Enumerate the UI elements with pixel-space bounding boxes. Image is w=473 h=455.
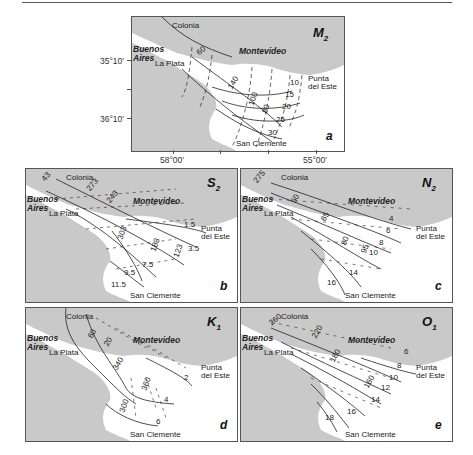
label-san-clemente: San Clemente bbox=[345, 292, 396, 300]
amp-label: 7.5 bbox=[142, 261, 153, 269]
lon-tick bbox=[220, 150, 221, 154]
amp-label: 16 bbox=[347, 408, 356, 416]
constituent-label: S2 bbox=[207, 175, 220, 193]
label-la-plata: La Plata bbox=[264, 210, 293, 218]
label-montevideo: Montevideo bbox=[239, 47, 286, 56]
label-la-plata: La Plata bbox=[49, 349, 78, 357]
label-montevideo: Montevideo bbox=[133, 336, 180, 345]
panel-letter: a bbox=[326, 129, 333, 143]
label-san-clemente: San Clemente bbox=[236, 140, 287, 148]
panel-letter: e bbox=[435, 418, 442, 432]
panel-s2: Colonia Buenos Aires La Plata Montevideo… bbox=[25, 168, 238, 303]
amp-label: 8 bbox=[379, 239, 383, 247]
amp-label: 4 bbox=[164, 396, 168, 404]
lat-label: 36°10' bbox=[100, 114, 124, 124]
lon-tick bbox=[316, 150, 317, 154]
amp-label: 2 bbox=[184, 374, 188, 382]
amp-label: 4 bbox=[389, 215, 393, 223]
label-colonia: Colonia bbox=[172, 22, 199, 30]
amp-label: 6 bbox=[386, 227, 390, 235]
panel-letter: c bbox=[435, 279, 442, 293]
lon-tick bbox=[173, 150, 174, 154]
label-aires: Aires bbox=[133, 54, 154, 63]
amp-label: 15 bbox=[285, 91, 294, 99]
label-del-este: del Este bbox=[201, 233, 230, 241]
lat-tick bbox=[127, 60, 131, 61]
amp-label: 1.5 bbox=[184, 221, 195, 229]
lon-label: 58°00' bbox=[160, 155, 184, 165]
amp-label: 30 bbox=[268, 129, 277, 137]
label-la-plata: La Plata bbox=[155, 60, 184, 68]
label-montevideo: Montevideo bbox=[133, 197, 180, 206]
panel-letter: b bbox=[220, 279, 227, 293]
amp-label: 12 bbox=[381, 384, 390, 392]
panel-letter: d bbox=[220, 418, 227, 432]
panel-m2: Colonia Buenos Aires La Plata Montevideo… bbox=[131, 16, 345, 152]
amp-label: 14 bbox=[349, 269, 358, 277]
amp-label: 18 bbox=[325, 414, 334, 422]
label-aires: Aires bbox=[242, 343, 263, 352]
amp-label: 14 bbox=[371, 396, 380, 404]
label-la-plata: La Plata bbox=[49, 210, 78, 218]
label-del-este: del Este bbox=[308, 83, 337, 91]
top-rule bbox=[22, 2, 452, 3]
label-aires: Aires bbox=[27, 204, 48, 213]
amp-label: 11.5 bbox=[111, 281, 126, 289]
label-del-este: del Este bbox=[416, 233, 445, 241]
label-colonia: Colonia bbox=[281, 174, 308, 182]
amp-label: 20 bbox=[282, 103, 291, 111]
amp-label: 8 bbox=[397, 362, 401, 370]
panel-o1: Colonia Buenos Aires La Plata Montevideo… bbox=[240, 307, 453, 442]
constituent-label: O1 bbox=[422, 314, 437, 332]
label-colonia: Colonia bbox=[281, 313, 308, 321]
amp-label: 16 bbox=[327, 279, 336, 287]
lat-label: 35°10' bbox=[100, 56, 124, 66]
label-montevideo: Montevideo bbox=[348, 197, 395, 206]
label-aires: Aires bbox=[242, 204, 263, 213]
label-montevideo: Montevideo bbox=[348, 336, 395, 345]
label-san-clemente: San Clemente bbox=[130, 292, 181, 300]
amp-label: 10 bbox=[290, 79, 299, 87]
amp-label: 3.5 bbox=[188, 245, 199, 253]
lat-tick bbox=[127, 89, 131, 90]
lat-tick bbox=[127, 118, 131, 119]
lon-label: 55°00' bbox=[303, 155, 327, 165]
constituent-label: K1 bbox=[207, 314, 221, 332]
label-san-clemente: San Clemente bbox=[345, 431, 396, 439]
amp-label: 6 bbox=[156, 418, 160, 426]
amp-label: 10 bbox=[389, 374, 398, 382]
label-la-plata: La Plata bbox=[264, 349, 293, 357]
constituent-label: M2 bbox=[313, 25, 328, 43]
amp-label: 9.5 bbox=[124, 269, 135, 277]
label-aires: Aires bbox=[27, 343, 48, 352]
amp-label: 25 bbox=[276, 116, 285, 124]
amp-label: 10 bbox=[369, 249, 378, 257]
label-del-este: del Este bbox=[416, 372, 445, 380]
panel-n2: Colonia Buenos Aires La Plata Montevideo… bbox=[240, 168, 453, 303]
panel-k1: Colonia Buenos Aires La Plata Montevideo… bbox=[25, 307, 238, 442]
constituent-label: N2 bbox=[422, 175, 436, 193]
label-san-clemente: San Clemente bbox=[130, 431, 181, 439]
lon-tick bbox=[268, 150, 269, 154]
label-del-este: del Este bbox=[201, 372, 230, 380]
label-colonia: Colonia bbox=[66, 313, 93, 321]
amp-label: 6 bbox=[404, 348, 408, 356]
